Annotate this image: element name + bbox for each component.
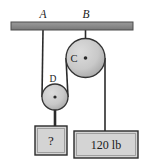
rope-a-to-pulley-d-left	[42, 30, 43, 97]
pulley-d-hub-dot	[53, 95, 56, 98]
pulley-d: D	[42, 74, 68, 110]
pulley-d-label: D	[50, 74, 57, 84]
anchor-label-group: A B	[38, 8, 89, 20]
known-load-block: 120 lb	[74, 131, 138, 158]
pulley-c-label: C	[70, 53, 77, 64]
pulley-system-figure: C D A B ? 120 lb	[0, 0, 144, 166]
pulley-c-hub-dot	[84, 56, 88, 60]
unknown-weight-block: ?	[35, 126, 67, 155]
anchor-b-label: B	[82, 8, 89, 20]
pulley-c: C	[66, 39, 105, 78]
unknown-block-label: ?	[48, 133, 54, 148]
anchor-a-label: A	[38, 8, 47, 20]
support-beam	[11, 22, 133, 30]
pulley-diagram-canvas: C D A B ? 120 lb	[0, 0, 144, 166]
load-block-label: 120 lb	[91, 138, 121, 152]
